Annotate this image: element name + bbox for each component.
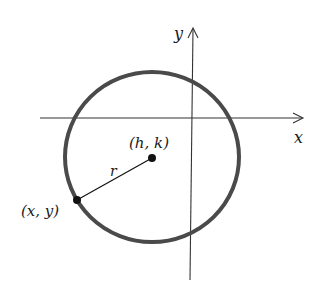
point-label: (x, y) (21, 202, 59, 220)
x-axis (40, 113, 303, 123)
y-axis-label: y (173, 24, 184, 43)
circumference-point (73, 196, 81, 204)
center-label: (h, k) (129, 134, 169, 152)
x-axis-label: x (294, 128, 303, 147)
y-axis (188, 28, 198, 280)
circle-diagram: y x (h, k) r (x, y) (0, 0, 331, 307)
center-point (148, 154, 156, 162)
radius-label: r (110, 163, 118, 179)
